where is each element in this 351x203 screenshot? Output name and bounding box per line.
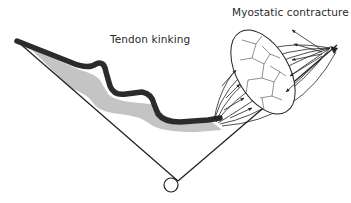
tendon-kinking-label: Tendon kinking	[110, 33, 190, 45]
muscle-cross-section	[217, 19, 308, 125]
diagram-canvas	[0, 0, 351, 203]
joint-circle	[164, 178, 178, 192]
myostatic-contracture-label: Myostatic contracture	[232, 6, 349, 18]
diagram-figure: Tendon kinking Myostatic contracture	[0, 0, 351, 203]
